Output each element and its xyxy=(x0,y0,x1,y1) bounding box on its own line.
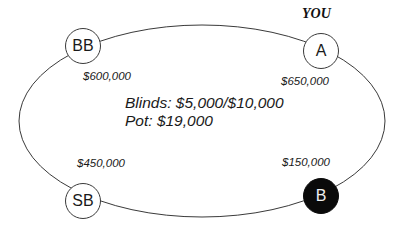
seat-label: B xyxy=(316,187,327,205)
seat-sb: SB xyxy=(65,183,101,219)
pot-text: Pot: $19,000 xyxy=(125,112,284,130)
hero-label: YOU xyxy=(302,7,331,21)
seat-bb: BB xyxy=(65,28,101,64)
table-center-info: Blinds: $5,000/$10,000 Pot: $19,000 xyxy=(125,94,284,130)
seat-a-hero: A xyxy=(303,33,339,69)
stack-sb: $450,000 xyxy=(77,158,125,170)
stack-bb: $600,000 xyxy=(83,71,131,83)
seat-label: SB xyxy=(72,192,93,210)
seat-label: A xyxy=(316,42,327,60)
blinds-text: Blinds: $5,000/$10,000 xyxy=(125,94,284,112)
stack-b: $150,000 xyxy=(282,157,330,169)
seat-label: BB xyxy=(72,37,93,55)
stack-a: $650,000 xyxy=(281,76,329,88)
seat-b-highlighted: B xyxy=(303,178,339,214)
